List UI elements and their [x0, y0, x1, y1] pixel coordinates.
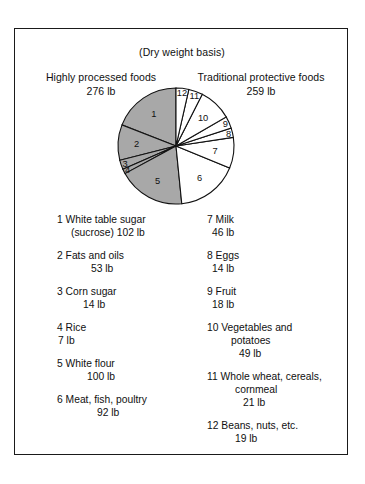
- legend-item-11-line1: 11 Whole wheat, cereals,: [207, 370, 349, 383]
- group-heading-traditional-protective: Traditional protective foods 259 lb: [175, 70, 347, 98]
- legend-item-8-line1: 8 Eggs: [207, 249, 349, 262]
- legend-item-7: 7 Milk 46 lb: [207, 213, 349, 239]
- pie-slice-8: [176, 128, 233, 146]
- legend-column-right: 7 Milk 46 lb 8 Eggs 14 lb 9 Fruit 18 lb …: [179, 213, 349, 448]
- legend-item-1-line1: 1 White table sugar: [57, 213, 179, 226]
- group-heading-left-label: Highly processed foods: [46, 71, 156, 83]
- legend-item-12-line2: 19 lb: [207, 432, 349, 445]
- pie-slice-label-7: 7: [213, 146, 218, 156]
- legend-item-3-line1: 3 Corn sugar: [57, 285, 179, 298]
- legend-item-9-line1: 9 Fruit: [207, 285, 349, 298]
- pie-slice-5: [125, 146, 182, 204]
- legend-item-5-line1: 5 White flour: [57, 357, 179, 370]
- legend-item-5: 5 White flour 100 lb: [57, 357, 179, 383]
- legend-item-10: 10 Vegetables and potatoes 49 lb: [207, 321, 349, 361]
- legend-item-9-line2: 18 lb: [207, 298, 349, 311]
- pie-slice-label-6: 6: [197, 173, 202, 183]
- figure-frame: (Dry weight basis) Highly processed food…: [14, 28, 348, 455]
- legend-item-1: 1 White table sugar (sucrose) 102 lb: [57, 213, 179, 239]
- pie-slice-number-labels: 123456789101112: [122, 88, 231, 186]
- pie-slice-3: [120, 146, 176, 169]
- group-heading-right-value: 259 lb: [175, 84, 347, 98]
- legend-item-2-line2: 53 lb: [57, 262, 179, 275]
- legend-item-10-line2: potatoes: [207, 334, 349, 347]
- legend-item-12: 12 Beans, nuts, etc. 19 lb: [207, 419, 349, 445]
- legend-column-left: 1 White table sugar (sucrose) 102 lb 2 F…: [15, 213, 179, 448]
- legend-item-10-line3: 49 lb: [207, 347, 349, 360]
- legend-item-8-line2: 14 lb: [207, 262, 349, 275]
- pie-slice-label-1: 1: [151, 109, 156, 119]
- pie-slice-9: [176, 117, 231, 146]
- group-heading-right-label: Traditional protective foods: [197, 71, 324, 83]
- legend-item-8: 8 Eggs 14 lb: [207, 249, 349, 275]
- legend-item-11-line3: 21 lb: [207, 396, 349, 409]
- legend-item-6-line1: 6 Meat, fish, poultry: [57, 393, 179, 406]
- legend-item-1-line2: (sucrose) 102 lb: [57, 226, 179, 239]
- pie-chart: 123456789101112: [111, 81, 241, 211]
- legend-item-2-line1: 2 Fats and oils: [57, 249, 179, 262]
- pie-slice-label-2: 2: [134, 139, 139, 149]
- figure-subtitle: (Dry weight basis): [15, 46, 349, 58]
- group-heading-highly-processed: Highly processed foods 276 lb: [17, 70, 185, 98]
- pie-slice-10: [176, 94, 226, 146]
- legend-item-4-line2: 7 lb: [57, 334, 179, 347]
- group-heading-left-value: 276 lb: [17, 84, 185, 98]
- legend-item-7-line1: 7 Milk: [207, 213, 349, 226]
- legend-item-6: 6 Meat, fish, poultry 92 lb: [57, 393, 179, 419]
- pie-slices: [118, 88, 234, 204]
- pie-slice-4: [123, 146, 176, 174]
- pie-slice-label-4: 4: [125, 165, 130, 175]
- legend-item-2: 2 Fats and oils 53 lb: [57, 249, 179, 275]
- legend-item-7-line2: 46 lb: [207, 226, 349, 239]
- legend-item-5-line2: 100 lb: [57, 370, 179, 383]
- pie-slice-label-10: 10: [198, 113, 208, 123]
- legend-item-3-line2: 14 lb: [57, 298, 179, 311]
- legend-item-6-line2: 92 lb: [57, 406, 179, 419]
- pie-slice-6: [176, 146, 230, 204]
- pie-slice-label-5: 5: [155, 176, 160, 186]
- pie-slice-7: [176, 137, 234, 168]
- legend-item-4: 4 Rice 7 lb: [57, 321, 179, 347]
- legend-item-11: 11 Whole wheat, cereals, cornmeal 21 lb: [207, 370, 349, 410]
- legend-item-10-line1: 10 Vegetables and: [207, 321, 349, 334]
- pie-slice-2: [118, 125, 176, 160]
- legend-item-9: 9 Fruit 18 lb: [207, 285, 349, 311]
- pie-slice-label-8: 8: [226, 129, 231, 139]
- legend-item-4-line1: 4 Rice: [57, 321, 179, 334]
- legend-item-3: 3 Corn sugar 14 lb: [57, 285, 179, 311]
- legend-item-12-line1: 12 Beans, nuts, etc.: [207, 419, 349, 432]
- pie-slice-label-3: 3: [122, 159, 127, 169]
- legend-item-11-line2: cornmeal: [207, 383, 349, 396]
- legend: 1 White table sugar (sucrose) 102 lb 2 F…: [15, 213, 349, 448]
- pie-slice-label-9: 9: [223, 119, 228, 129]
